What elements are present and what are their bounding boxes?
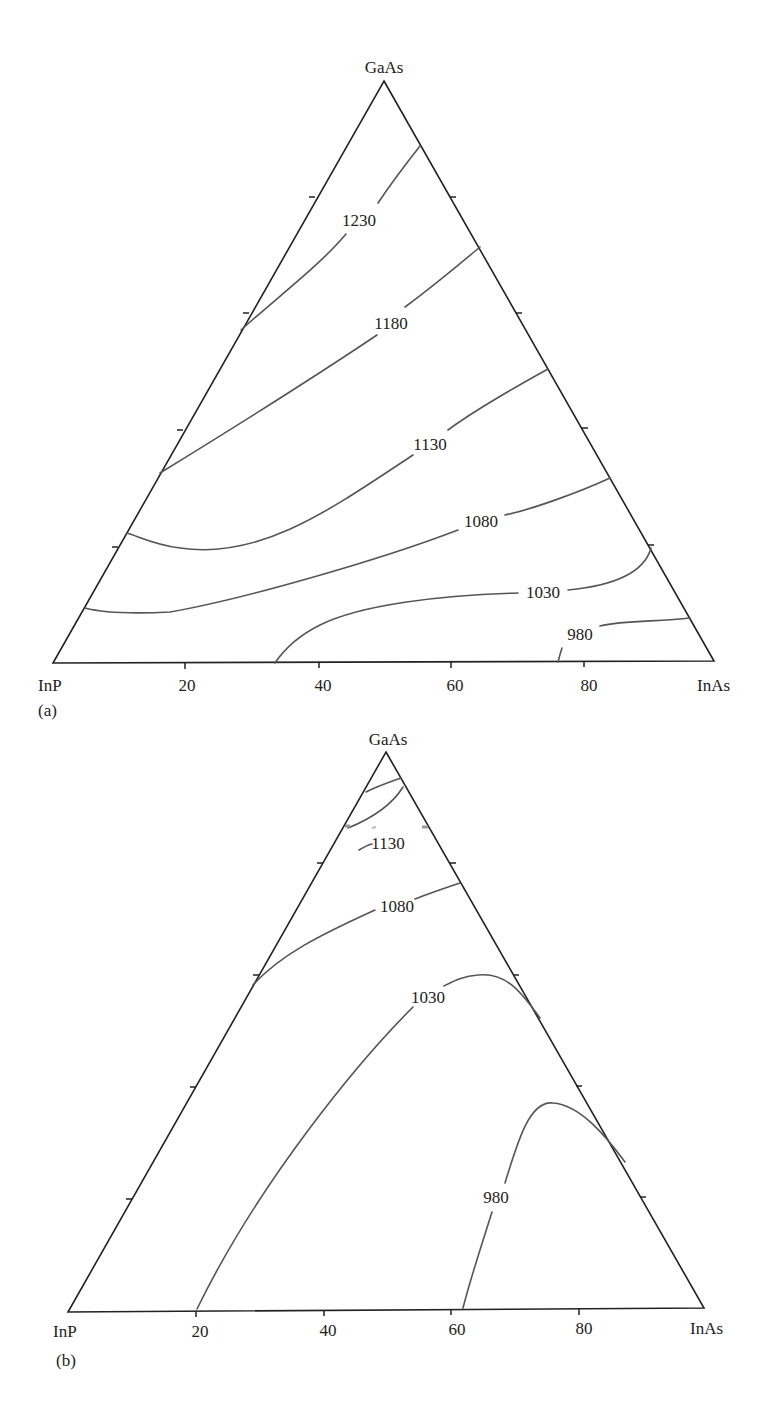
panel-label-a: (a) [38, 701, 57, 720]
contour-label-1130-a: 1130 [413, 435, 446, 454]
vertex-label-right-b: InAs [690, 1319, 723, 1338]
contour-label-1180-a: 1180 [374, 314, 407, 333]
contour-label-980-b: 980 [483, 1188, 509, 1207]
tick-label-80-b: 80 [576, 1319, 593, 1338]
contour-upper-1-b [366, 778, 401, 792]
vertex-label-left-b: InP [53, 1322, 77, 1341]
right-ticks-b [450, 863, 646, 1197]
panel-label-b: (b) [56, 1351, 76, 1370]
contour-label-1230-a: 1230 [342, 211, 376, 230]
tick-label-40-b: 40 [320, 1321, 337, 1340]
panel-a: 1230 1180 1130 1080 1030 980 GaAs InP In… [38, 58, 730, 720]
vertex-label-top-b: GaAs [369, 730, 408, 749]
contour-label-1080-b: 1080 [380, 897, 414, 916]
left-ticks-a [112, 197, 315, 547]
contour-1130-b [359, 844, 372, 850]
contour-label-980-a: 980 [567, 625, 593, 644]
contour-label-1030-b: 1030 [411, 988, 445, 1007]
tick-label-60-a: 60 [447, 676, 464, 695]
vertex-label-top-a: GaAs [365, 58, 404, 77]
contour-label-1130-b: 1130 [371, 834, 404, 853]
contour-1080-b [253, 883, 460, 985]
tick-label-20-a: 20 [179, 676, 196, 695]
vertex-label-right-a: InAs [697, 676, 730, 695]
contour-1030-a [275, 548, 651, 663]
tick-label-40-a: 40 [315, 676, 332, 695]
tick-label-20-b: 20 [192, 1322, 209, 1341]
figure: 1230 1180 1130 1080 1030 980 GaAs InP In… [0, 0, 777, 1410]
contour-label-1030-a: 1030 [526, 583, 560, 602]
contour-1030-b [197, 975, 540, 1309]
dashed-artifacts-b [345, 826, 428, 828]
panel-b: 1130 1080 1030 980 GaAs InP InAs 20 40 6… [53, 730, 723, 1370]
vertex-label-left-a: InP [38, 676, 62, 695]
tick-label-80-a: 80 [581, 676, 598, 695]
tick-label-60-b: 60 [449, 1320, 466, 1339]
ternary-frame-a [53, 81, 714, 663]
contour-upper-2-b [348, 787, 403, 828]
contour-label-1080-a: 1080 [464, 512, 498, 531]
